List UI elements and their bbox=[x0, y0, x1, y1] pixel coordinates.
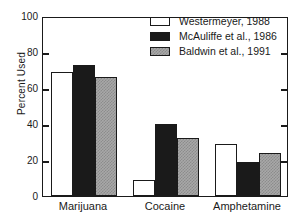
y-tick-label: 40 bbox=[12, 120, 38, 130]
bar bbox=[133, 180, 155, 196]
y-tick-label: 0 bbox=[12, 192, 38, 202]
legend: Westermeyer, 1988McAuliffe et al., 1986B… bbox=[150, 14, 277, 59]
legend-label: McAuliffe et al., 1986 bbox=[179, 31, 277, 42]
bar bbox=[177, 138, 199, 196]
y-tick-label: 100 bbox=[12, 12, 38, 22]
x-tick-label: Cocaine bbox=[124, 200, 206, 213]
legend-item: Westermeyer, 1988 bbox=[150, 14, 277, 29]
bar bbox=[73, 65, 95, 196]
x-tick-label: Amphetamine bbox=[206, 200, 288, 213]
y-axis-tick-labels: 020406080100 bbox=[10, 0, 38, 223]
legend-swatch-icon bbox=[150, 47, 170, 56]
bar bbox=[237, 162, 259, 196]
bar bbox=[51, 72, 73, 196]
legend-item: McAuliffe et al., 1986 bbox=[150, 29, 277, 44]
y-tick-label: 60 bbox=[12, 84, 38, 94]
legend-label: Westermeyer, 1988 bbox=[179, 16, 270, 27]
legend-swatch-icon bbox=[150, 32, 170, 41]
x-axis-tick-labels: MarijuanaCocaineAmphetamine bbox=[42, 200, 288, 220]
y-tick-label: 80 bbox=[12, 48, 38, 58]
x-tick-label: Marijuana bbox=[42, 200, 124, 213]
bar bbox=[95, 77, 117, 196]
bar bbox=[215, 144, 237, 196]
legend-item: Baldwin et al., 1991 bbox=[150, 44, 277, 59]
bar bbox=[259, 153, 281, 196]
legend-swatch-icon bbox=[150, 17, 170, 26]
bar-chart: Percent Used 020406080100 MarijuanaCocai… bbox=[0, 0, 305, 223]
legend-label: Baldwin et al., 1991 bbox=[179, 46, 271, 57]
y-tick-label: 20 bbox=[12, 156, 38, 166]
bar bbox=[155, 124, 177, 196]
